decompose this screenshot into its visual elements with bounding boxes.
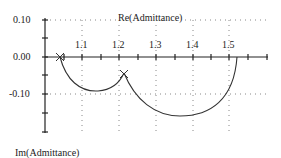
x-axis-label: Re(Admittance) bbox=[117, 12, 183, 23]
x-tick-label: 1.5 bbox=[222, 39, 235, 50]
y-tick-label: 0.10 bbox=[13, 14, 31, 25]
grid bbox=[45, 20, 268, 132]
data-curves bbox=[60, 57, 237, 116]
series-loop-1 bbox=[60, 57, 124, 91]
x-tick-label: 1.1 bbox=[75, 39, 88, 50]
x-tick-label: 1.4 bbox=[186, 39, 199, 50]
y-tick-label: -0.10 bbox=[9, 88, 30, 99]
x-tick-label: 1.2 bbox=[112, 39, 125, 50]
x-tick-label: 1.3 bbox=[149, 39, 162, 50]
admittance-plot bbox=[0, 0, 281, 158]
y-tick-label: 0.00 bbox=[13, 51, 31, 62]
series-loop-2 bbox=[124, 57, 237, 116]
y-axis-label: Im(Admittance) bbox=[15, 147, 79, 158]
